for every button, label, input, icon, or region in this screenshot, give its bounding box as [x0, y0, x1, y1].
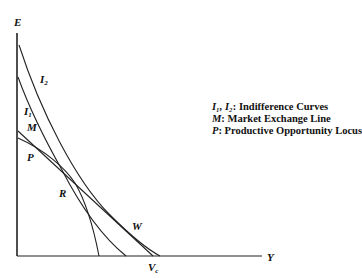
curve-label-i1: I1 — [24, 106, 32, 119]
axis-label-e: E — [14, 17, 21, 28]
axis-label-y: Y — [267, 252, 274, 263]
legend-row-indifference: I₁, I₂: Indifference Curves — [212, 101, 362, 113]
market-exchange-line — [18, 131, 153, 256]
legend-row-productive: P: Productive Opportunity Locus — [212, 125, 362, 137]
curve-label-i2: I2 — [40, 74, 48, 87]
legend-row-market: M: Market Exchange Line — [212, 113, 362, 125]
axis-label-vc: Vc — [148, 262, 158, 275]
curve-label-p: P — [27, 152, 34, 163]
point-label-r: R — [59, 188, 66, 199]
legend: I₁, I₂: Indifference Curves M: Market Ex… — [212, 101, 362, 137]
curve-label-m: M — [27, 122, 37, 133]
point-label-w: W — [132, 221, 142, 232]
indifference-curve-i1 — [18, 77, 126, 256]
